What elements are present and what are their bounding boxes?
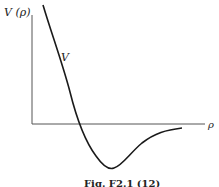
x-axis-label: ρ xyxy=(208,120,214,130)
potential-curve xyxy=(43,5,182,169)
y-axis-label: V (ρ) xyxy=(4,7,31,18)
curve-label: V xyxy=(61,52,69,63)
figure-caption: Fig. F2.1 (12) xyxy=(84,178,160,187)
potential-diagram xyxy=(0,0,219,187)
